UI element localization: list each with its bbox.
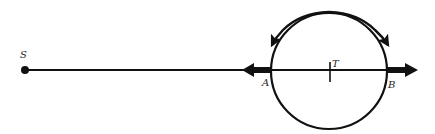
label-s: S [20, 49, 27, 60]
diagram-canvas: S T A B [0, 0, 435, 134]
label-t: T [332, 58, 340, 69]
circle [271, 13, 387, 129]
arrow-left-at-a [242, 63, 271, 77]
label-b: B [387, 79, 395, 90]
source-point [21, 66, 29, 74]
label-a: A [261, 77, 269, 88]
arrow-right-at-b [386, 63, 418, 77]
